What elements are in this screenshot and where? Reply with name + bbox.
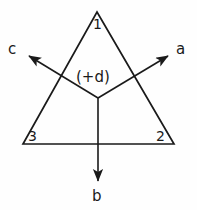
axis-label-b: b bbox=[92, 189, 102, 204]
vertex-label-3: 3 bbox=[28, 129, 37, 143]
figure-canvas: 1 c a (+d) 3 2 b bbox=[0, 0, 197, 210]
vertex-label-1: 1 bbox=[93, 17, 102, 31]
center-annotation-label: (+d) bbox=[76, 70, 110, 85]
axis-label-c: c bbox=[8, 42, 16, 57]
vertex-label-2: 2 bbox=[156, 129, 165, 143]
axis-label-a: a bbox=[176, 42, 185, 57]
